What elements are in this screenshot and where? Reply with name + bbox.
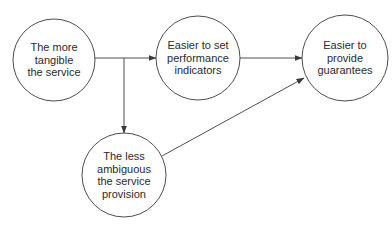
node-ambiguous-label: The less ambiguous the service provision — [84, 149, 164, 201]
label-line: The less — [97, 150, 151, 163]
label-line: The more — [27, 41, 80, 54]
label-line: provision — [97, 188, 151, 201]
node-tangible-label: The more tangible the service — [14, 40, 94, 80]
label-line: Easier to — [317, 39, 372, 52]
label-line: ambiguous — [97, 163, 151, 176]
label-line: performance — [167, 52, 229, 65]
label-line: the service — [27, 66, 80, 79]
label-line: the service — [97, 175, 151, 188]
label-line: provide — [317, 52, 372, 65]
node-performance-label: Easier to set performance indicators — [156, 38, 240, 78]
label-line: Easier to set — [167, 39, 229, 52]
diagram-canvas — [0, 0, 392, 228]
label-line: guarantees — [317, 64, 372, 77]
label-line: indicators — [167, 64, 229, 77]
node-guarantees-label: Easier to provide guarantees — [303, 38, 387, 78]
label-line: tangible — [27, 54, 80, 67]
